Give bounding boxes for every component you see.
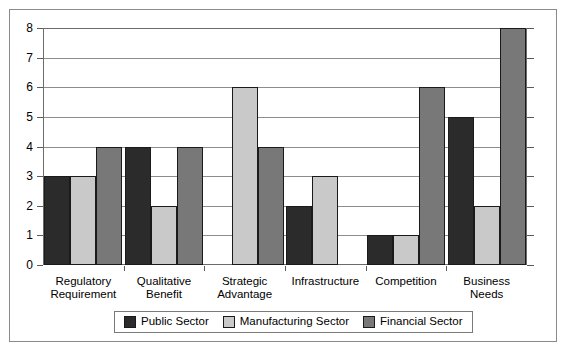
x-axis-tick-label: Regulatory Requirement	[43, 275, 124, 300]
legend-swatch-icon	[124, 316, 136, 328]
legend-entry: Public Sector	[124, 316, 209, 328]
bar	[419, 87, 445, 265]
y-axis-tick-label: 0	[26, 259, 33, 271]
x-axis-tick-label: Qualitative Benefit	[124, 275, 205, 300]
bar	[448, 117, 474, 265]
bar	[286, 206, 312, 265]
bar	[125, 147, 151, 266]
bar	[151, 206, 177, 265]
legend-label: Financial Sector	[380, 316, 462, 328]
x-axis-tick-mark	[204, 266, 205, 271]
legend-label: Manufacturing Sector	[240, 316, 349, 328]
x-axis-tick-label: Competition	[366, 275, 447, 288]
bars-layer	[43, 28, 527, 265]
y-axis-tick-labels: 012345678	[9, 28, 39, 265]
y-axis-tick-mark	[527, 147, 534, 148]
legend-label: Public Sector	[141, 316, 209, 328]
y-axis-tick-label: 6	[26, 81, 33, 93]
bar	[44, 176, 70, 265]
bar	[393, 235, 419, 265]
x-axis-tick-label: Business Needs	[446, 275, 527, 300]
legend-entry: Manufacturing Sector	[223, 316, 349, 328]
x-axis-tick-mark	[446, 266, 447, 271]
bar	[500, 28, 526, 265]
y-axis-tick-label: 1	[26, 229, 33, 241]
x-axis-tick-mark	[124, 266, 125, 271]
y-axis-tick-label: 4	[26, 141, 33, 153]
bar	[312, 176, 338, 265]
y-axis-tick-label: 7	[26, 52, 33, 64]
y-axis-tick-label: 5	[26, 111, 33, 123]
bar	[367, 235, 393, 265]
bar	[177, 147, 203, 266]
x-axis-tick-label: Infrastructure	[285, 275, 366, 288]
y-axis-tick-mark	[527, 265, 534, 266]
y-axis-tick-label: 8	[26, 22, 33, 34]
bar	[258, 147, 284, 266]
y-axis-tick-mark	[527, 87, 534, 88]
x-axis-tick-mark	[285, 266, 286, 271]
bar	[70, 176, 96, 265]
y-axis-tick-mark	[527, 235, 534, 236]
y-axis-tick-mark	[527, 58, 534, 59]
x-axis-tick-label: Strategic Advantage	[204, 275, 285, 300]
y-axis-tick-mark	[527, 176, 534, 177]
bar	[474, 206, 500, 265]
x-axis-tick-mark	[366, 266, 367, 271]
bar	[96, 147, 122, 266]
legend-entry: Financial Sector	[363, 316, 462, 328]
legend-swatch-icon	[223, 316, 235, 328]
y-axis-tick-mark	[527, 206, 534, 207]
y-axis-tick-label: 2	[26, 200, 33, 212]
bar	[232, 87, 258, 265]
y-axis-tick-mark	[527, 117, 534, 118]
chart-legend: Public SectorManufacturing SectorFinanci…	[114, 311, 473, 333]
chart-figure: 012345678 Regulatory RequirementQualitat…	[0, 0, 567, 352]
y-axis-tick-mark	[527, 28, 534, 29]
legend-swatch-icon	[363, 316, 375, 328]
y-axis-tick-mark	[37, 265, 43, 266]
y-axis-tick-label: 3	[26, 170, 33, 182]
